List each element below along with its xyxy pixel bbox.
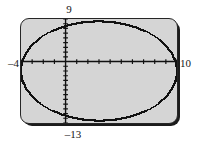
- calculator-screen: [20, 18, 178, 124]
- x-max-label: 10: [180, 58, 198, 69]
- calculator-screenshot: 9 –4 10 –13: [0, 0, 198, 145]
- graph-plot: [21, 19, 177, 123]
- y-max-label: 9: [0, 4, 138, 15]
- y-min-label: –13: [0, 129, 146, 140]
- x-min-label: –4: [2, 58, 19, 69]
- ellipse-curve: [21, 21, 177, 121]
